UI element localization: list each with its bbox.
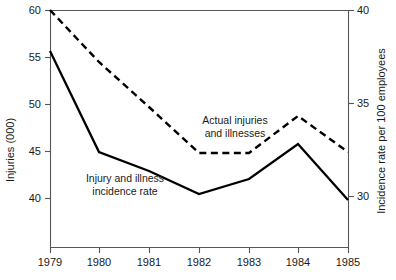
annotation-actual-injuries: Actual injuries and illnesses xyxy=(202,114,267,139)
right-axis-title: Incidence rate per 100 employees xyxy=(375,48,387,214)
annotation-incidence-rate-line2: incidence rate xyxy=(92,185,158,197)
left-tick-label-50: 50 xyxy=(29,98,41,110)
annotation-actual-injuries-line2: and illnesses xyxy=(205,127,266,139)
plot-frame xyxy=(51,10,349,248)
chart-container: 60 55 50 45 40 40 35 30 1979 1980 19 xyxy=(0,0,396,280)
x-tick-label-1981: 1981 xyxy=(137,256,161,268)
x-tick-label-1980: 1980 xyxy=(87,256,111,268)
x-tick-label-1979: 1979 xyxy=(38,256,62,268)
x-tick-label-1984: 1984 xyxy=(286,256,310,268)
left-tick-label-60: 60 xyxy=(29,4,41,16)
annotation-incidence-rate-line1: Injury and illness xyxy=(86,172,164,184)
left-axis-title: Injuries (000) xyxy=(4,118,16,182)
line-chart-figure: 60 55 50 45 40 40 35 30 1979 1980 19 xyxy=(0,0,396,280)
right-tick-label-35: 35 xyxy=(357,97,369,109)
x-tick-label-1983: 1983 xyxy=(237,256,261,268)
x-axis-ticks: 1979 1980 1981 1982 1983 1984 1985 xyxy=(38,248,360,269)
left-tick-label-45: 45 xyxy=(29,145,41,157)
annotation-incidence-rate: Injury and illness incidence rate xyxy=(86,172,164,197)
x-tick-label-1982: 1982 xyxy=(187,256,211,268)
annotation-actual-injuries-line1: Actual injuries xyxy=(202,114,267,126)
left-tick-label-40: 40 xyxy=(29,192,41,204)
right-axis-ticks: 40 35 30 xyxy=(349,4,370,202)
series-actual-injuries-and-illnesses xyxy=(50,10,348,153)
x-tick-label-1985: 1985 xyxy=(336,256,360,268)
left-tick-label-55: 55 xyxy=(29,51,41,63)
right-tick-label-40: 40 xyxy=(357,4,369,16)
right-tick-label-30: 30 xyxy=(357,190,369,202)
left-axis-ticks: 60 55 50 45 40 xyxy=(29,4,51,204)
